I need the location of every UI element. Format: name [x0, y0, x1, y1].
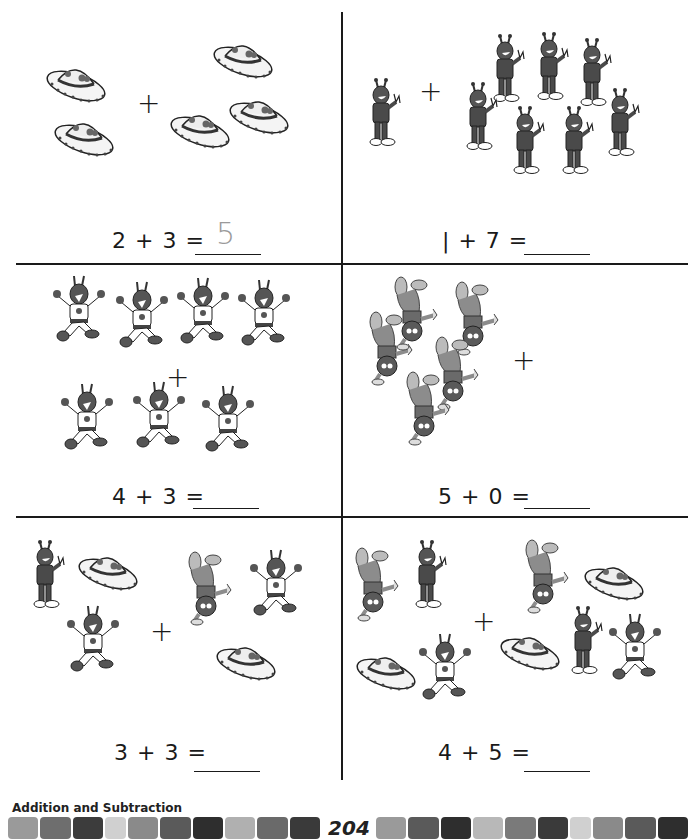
pattern-tile: [105, 817, 126, 839]
equation: 3 + 3 =: [114, 740, 207, 765]
jumping-alien-left-2: [115, 280, 171, 350]
jumping-alien-left-3: [176, 276, 232, 346]
pattern-tile: [658, 817, 688, 839]
jumping-alien: [66, 604, 122, 674]
waving-alien-left-1: [364, 78, 404, 148]
answer-blank[interactable]: [524, 254, 590, 255]
section-title: Addition and Subtraction: [12, 801, 182, 815]
page-number: 204: [328, 816, 370, 840]
pattern-tile: [441, 817, 471, 839]
jumping-alien-right-1: [60, 382, 116, 452]
pattern-tile: [290, 817, 320, 839]
ufo-picture-left-1: [46, 62, 116, 112]
ufo-picture-left-2: [54, 116, 124, 166]
jumping-alien: [249, 548, 305, 618]
jumping-alien-right-3: [201, 384, 257, 454]
pattern-tile: [570, 817, 591, 839]
vertical-divider: [341, 12, 343, 780]
pattern-tile: [8, 817, 38, 839]
equation: | + 7 =: [442, 228, 528, 253]
decorative-banner: 204: [8, 815, 690, 840]
answer-blank[interactable]: [524, 508, 590, 509]
pattern-tile: [376, 817, 406, 839]
waving-alien-right-6: [557, 106, 597, 176]
waving-alien: [28, 540, 68, 610]
jumping-alien-left-1: [52, 274, 108, 344]
ufo-picture: [216, 640, 296, 690]
answer-blank[interactable]: [524, 771, 590, 772]
equation: 4 + 5 =: [438, 740, 531, 765]
waving-alien: [566, 606, 606, 676]
equation: 5 + 0 =: [438, 484, 531, 509]
pattern-tile: [193, 817, 223, 839]
jumping-alien-right-2: [132, 380, 188, 450]
pattern-tile: [257, 817, 287, 839]
equation: 4 + 3 =: [112, 484, 205, 509]
jumping-alien-left-4: [237, 278, 293, 348]
waving-alien-right-2: [532, 32, 572, 102]
traced-answer: 5: [216, 219, 235, 249]
waving-alien-right-4: [461, 82, 501, 152]
pattern-tile: [73, 817, 103, 839]
plus-sign: +: [419, 78, 442, 106]
pattern-tile: [225, 817, 255, 839]
pattern-tile: [505, 817, 535, 839]
answer-blank[interactable]: [195, 254, 261, 255]
answer-blank[interactable]: [194, 771, 260, 772]
jumping-alien: [418, 632, 474, 702]
waving-alien-right-7: [603, 88, 643, 158]
plus-sign: +: [512, 347, 535, 375]
jumping-alien: [608, 612, 664, 682]
answer-blank[interactable]: [193, 508, 259, 509]
pattern-tile: [625, 817, 655, 839]
waving-alien-right-5: [508, 106, 548, 176]
ufo-picture: [584, 560, 664, 610]
handstand-alien-5: [403, 370, 453, 448]
pattern-tile: [128, 817, 158, 839]
plus-sign: +: [137, 90, 160, 118]
pattern-tile: [593, 817, 623, 839]
pattern-tile: [408, 817, 438, 839]
handstand-alien: [352, 546, 412, 626]
pattern-tile: [160, 817, 190, 839]
ufo-picture: [78, 550, 158, 600]
ufo-picture-right-3: [229, 94, 299, 144]
equation: 2 + 3 =: [112, 228, 205, 253]
pattern-tile: [40, 817, 70, 839]
ufo-picture-right-1: [213, 38, 283, 88]
waving-alien: [410, 540, 450, 610]
handstand-alien: [185, 550, 245, 630]
horizontal-divider-2: [16, 516, 688, 518]
plus-sign: +: [150, 618, 173, 646]
pattern-tile: [538, 817, 568, 839]
horizontal-divider-1: [16, 263, 688, 265]
plus-sign: +: [472, 608, 495, 636]
pattern-tile: [473, 817, 503, 839]
